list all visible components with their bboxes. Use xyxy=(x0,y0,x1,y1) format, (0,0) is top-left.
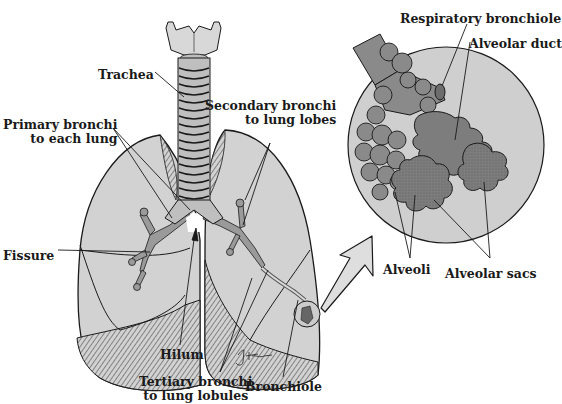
label-alveolar-duct: Alveolar duct xyxy=(469,37,562,51)
label-primary-bronchi-line1: Primary bronchi xyxy=(3,118,117,132)
label-fissure: Fissure xyxy=(3,249,54,263)
label-secondary-bronchi: Secondary bronchi to lung lobes xyxy=(205,99,336,127)
alveoli-inset xyxy=(348,34,544,243)
label-respiratory-bronchiole: Respiratory bronchiole xyxy=(400,12,561,26)
label-trachea: Trachea xyxy=(98,68,154,82)
label-alveoli: Alveoli xyxy=(383,263,431,277)
magnification-arrow xyxy=(321,236,373,312)
label-secondary-bronchi-line1: Secondary bronchi xyxy=(205,99,336,113)
label-bronchiole: Bronchiole xyxy=(245,380,322,394)
label-alveolar-sacs: Alveolar sacs xyxy=(445,267,537,281)
label-tertiary-bronchi: Tertiary bronchi to lung lobules xyxy=(139,375,252,403)
label-hilum: Hilum xyxy=(160,348,204,362)
label-tertiary-bronchi-line1: Tertiary bronchi xyxy=(139,375,252,389)
label-primary-bronchi: Primary bronchi to each lung xyxy=(3,118,117,146)
label-secondary-bronchi-line2: to lung lobes xyxy=(205,113,336,127)
label-tertiary-bronchi-line2: to lung lobules xyxy=(139,389,252,403)
label-primary-bronchi-line2: to each lung xyxy=(3,132,117,146)
